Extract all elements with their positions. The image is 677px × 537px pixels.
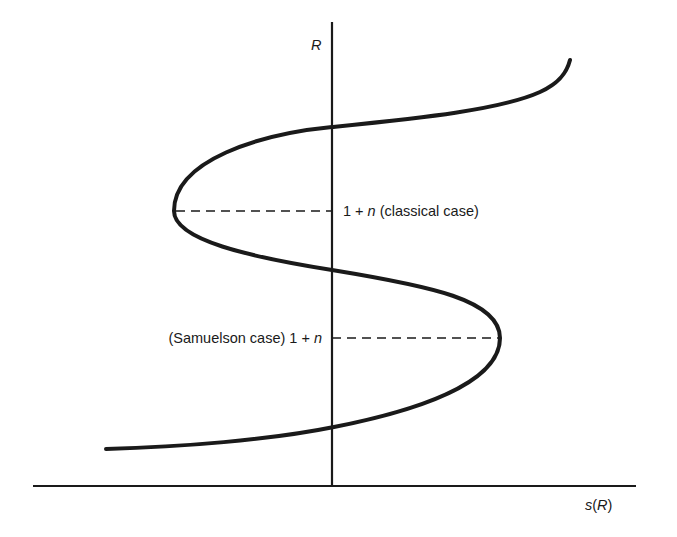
y-axis-label: R — [311, 37, 322, 53]
classical-suffix: (classical case) — [376, 203, 479, 219]
x-axis-label: s(R) — [585, 497, 612, 513]
x-axis-label-r: R — [597, 497, 608, 513]
classical-n: n — [368, 203, 376, 219]
s-curve-diagram: R s(R) 1 + n (classical case) (Samuelson… — [0, 0, 677, 537]
classical-prefix: 1 + — [343, 203, 368, 219]
x-axis-label-s: s — [585, 497, 592, 513]
samuelson-prefix: (Samuelson case) 1 + — [168, 330, 313, 346]
classical-case-label: 1 + n (classical case) — [343, 203, 479, 219]
savings-curve — [106, 60, 570, 449]
samuelson-case-label: (Samuelson case) 1 + n — [168, 330, 322, 346]
samuelson-n: n — [314, 330, 322, 346]
x-axis-label-close: ) — [608, 497, 613, 513]
